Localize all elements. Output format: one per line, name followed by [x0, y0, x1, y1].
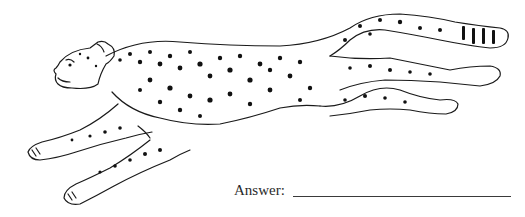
cheetah-foreleg-upper [28, 104, 152, 160]
cheetah-spots [68, 18, 495, 174]
cheetah-back [106, 14, 508, 56]
cheetah-hind-leg-upper [330, 56, 500, 90]
answer-label: Answer: [234, 181, 285, 199]
answer-blank-line[interactable] [293, 196, 511, 197]
answer-row: Answer: [234, 181, 511, 199]
cheetah-belly [112, 92, 320, 124]
cheetah-hind-leg-lower [320, 88, 458, 116]
